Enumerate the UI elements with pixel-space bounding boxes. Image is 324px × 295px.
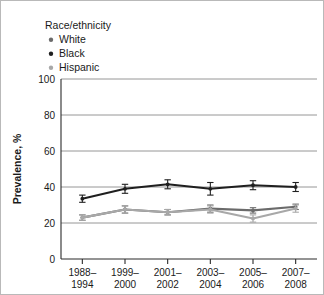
x-tick-label: 1988– xyxy=(68,267,96,278)
data-point-marker xyxy=(294,207,298,211)
y-tick-label: 0 xyxy=(49,254,55,265)
x-tick-label: 2003– xyxy=(196,267,224,278)
x-tick-label: 2005– xyxy=(239,267,267,278)
data-point-marker xyxy=(123,187,127,191)
y-axis-ticks: 020406080100 xyxy=(38,74,55,265)
x-tick-label: 2001– xyxy=(154,267,182,278)
legend-item-label: Hispanic xyxy=(59,61,99,73)
gridlines xyxy=(61,79,317,223)
y-tick-label: 100 xyxy=(38,74,55,85)
legend-item-label: Black xyxy=(59,47,85,59)
data-point-marker xyxy=(166,210,170,214)
dot-marker xyxy=(49,52,53,56)
y-tick-label: 80 xyxy=(44,110,56,121)
x-tick-label: 1994 xyxy=(71,279,94,290)
series-hispanic xyxy=(79,205,299,222)
prevalence-line-chart: Race/ethnicityWhiteBlackHispanic 0204060… xyxy=(1,1,324,295)
legend-title: Race/ethnicity xyxy=(45,19,112,31)
figure-container: Race/ethnicityWhiteBlackHispanic 0204060… xyxy=(0,0,324,295)
y-axis-title-label: Prevalence, % xyxy=(11,133,23,204)
series-black xyxy=(79,180,299,203)
data-point-marker xyxy=(80,197,84,201)
y-axis-title: Prevalence, % xyxy=(11,133,23,204)
data-point-marker xyxy=(80,216,84,220)
x-tick-label: 2007– xyxy=(282,267,310,278)
data-point-marker xyxy=(166,182,170,186)
data-point-marker xyxy=(251,209,255,213)
data-point-marker xyxy=(123,208,127,212)
dot-marker xyxy=(49,38,53,42)
data-point-marker xyxy=(251,217,255,221)
x-tick-label: 2000 xyxy=(114,279,137,290)
data-point-marker xyxy=(251,183,255,187)
x-axis-ticks: 1988–19941999–20002001–20022003–20042005… xyxy=(68,259,310,290)
legend: Race/ethnicityWhiteBlackHispanic xyxy=(45,19,112,73)
x-tick-label: 2004 xyxy=(199,279,222,290)
data-point-marker xyxy=(208,208,212,212)
data-series xyxy=(79,180,299,222)
data-point-marker xyxy=(294,185,298,189)
data-point-marker xyxy=(208,187,212,191)
y-tick-label: 20 xyxy=(44,218,56,229)
dot-marker xyxy=(49,66,53,70)
x-tick-label: 1999– xyxy=(111,267,139,278)
series-line xyxy=(82,184,295,198)
x-tick-label: 2008 xyxy=(285,279,308,290)
axes xyxy=(61,79,317,259)
legend-item-label: White xyxy=(59,33,86,45)
x-tick-label: 2006 xyxy=(242,279,265,290)
x-tick-label: 2002 xyxy=(157,279,180,290)
y-tick-label: 40 xyxy=(44,182,56,193)
y-tick-label: 60 xyxy=(44,146,56,157)
